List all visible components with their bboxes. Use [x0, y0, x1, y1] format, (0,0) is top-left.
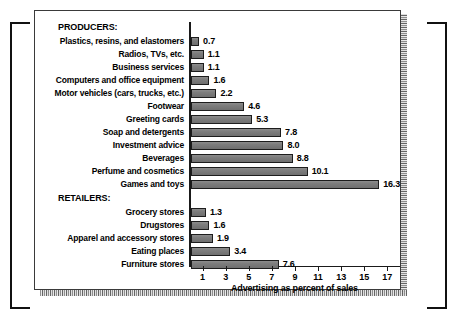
x-axis-tick-label: 3	[223, 272, 228, 282]
x-axis-tick-label: 15	[359, 272, 369, 282]
bar-category-label: Apparel and accessory stores	[67, 232, 184, 245]
bar-value-label: 4.6	[248, 100, 260, 113]
x-axis-tick	[364, 266, 365, 271]
bar	[191, 167, 308, 176]
x-axis-tick-label: 11	[313, 272, 323, 282]
bar-row: Greeting cards5.3	[35, 113, 400, 126]
section-title-producers: PRODUCERS:	[58, 22, 118, 32]
x-axis-tick-label: 1	[200, 272, 205, 282]
bar-value-label: 7.8	[285, 126, 297, 139]
bar-value-label: 1.6	[213, 219, 225, 232]
bar-category-label: Grocery stores	[126, 206, 184, 219]
bar-category-label: Furniture stores	[121, 258, 184, 271]
bar-category-label: Motor vehicles (cars, trucks, etc.)	[55, 87, 184, 100]
bar	[191, 208, 206, 217]
bar	[191, 102, 244, 111]
bar-category-label: Footwear	[147, 100, 184, 113]
x-axis-tick	[272, 266, 273, 271]
bar-value-label: 1.1	[208, 48, 220, 61]
bar-row: Furniture stores7.6	[35, 258, 400, 271]
bar-category-label: Business services	[112, 61, 184, 74]
bar-category-label: Plastics, resins, and elastomers	[60, 35, 184, 48]
bar	[191, 76, 209, 85]
bar-value-label: 5.3	[256, 113, 268, 126]
bar-row: Perfume and cosmetics10.1	[35, 165, 400, 178]
bar-row: Investment advice8.0	[35, 139, 400, 152]
chart-panel: Advertising as percent of sales PRODUCER…	[34, 10, 401, 290]
bar-category-label: Drugstores	[140, 219, 184, 232]
x-axis-tick-label: 7	[269, 272, 274, 282]
bar-row: Grocery stores1.3	[35, 206, 400, 219]
bar-category-label: Investment advice	[113, 139, 184, 152]
bar-row: Plastics, resins, and elastomers0.7	[35, 35, 400, 48]
bar-row: Soap and detergents7.8	[35, 126, 400, 139]
bar-category-label: Soap and detergents	[103, 126, 184, 139]
bar-chart-plot: Advertising as percent of sales PRODUCER…	[35, 11, 400, 289]
bar	[191, 128, 281, 137]
bar-row: Drugstores1.6	[35, 219, 400, 232]
bar-row: Computers and office equipment1.6	[35, 74, 400, 87]
decorative-bracket-left	[10, 22, 30, 309]
bar	[191, 247, 230, 256]
bar-value-label: 1.1	[208, 61, 220, 74]
x-axis-tick-label: 9	[292, 272, 297, 282]
section-title-retailers: RETAILERS:	[58, 193, 110, 203]
x-axis-tick-label: 5	[246, 272, 251, 282]
bar-category-label: Games and toys	[120, 178, 184, 191]
bar-value-label: 2.2	[220, 87, 232, 100]
bar-category-label: Greeting cards	[126, 113, 184, 126]
bar-value-label: 16.3	[383, 178, 400, 191]
bar-value-label: 8.0	[287, 139, 299, 152]
bar	[191, 37, 199, 46]
x-axis-tick	[249, 266, 250, 271]
bar	[191, 154, 293, 163]
x-axis-tick	[318, 266, 319, 271]
bar-value-label: 8.8	[297, 152, 309, 165]
bar	[191, 221, 209, 230]
x-axis-title: Advertising as percent of sales	[189, 283, 400, 293]
bar-value-label: 7.6	[283, 258, 295, 271]
bar-row: Apparel and accessory stores1.9	[35, 232, 400, 245]
bar-value-label: 1.3	[210, 206, 222, 219]
x-axis-tick	[341, 266, 342, 271]
x-axis-tick-label: 13	[336, 272, 346, 282]
bar	[191, 260, 279, 269]
x-axis-tick	[387, 266, 388, 271]
bar	[191, 234, 213, 243]
x-axis-tick	[226, 266, 227, 271]
bar-row: Radios, TVs, etc.1.1	[35, 48, 400, 61]
bar-row: Business services1.1	[35, 61, 400, 74]
decorative-bracket-right	[427, 22, 447, 309]
bar	[191, 89, 216, 98]
x-axis-tick	[295, 266, 296, 271]
bar	[191, 180, 379, 189]
bar-value-label: 10.1	[312, 165, 329, 178]
bar-row: Beverages8.8	[35, 152, 400, 165]
bar-row: Eating places3.4	[35, 245, 400, 258]
bar-category-label: Eating places	[131, 245, 184, 258]
x-axis-tick	[203, 266, 204, 271]
bar	[191, 50, 204, 59]
bar	[191, 115, 252, 124]
bar-category-label: Computers and office equipment	[56, 74, 184, 87]
bar-category-label: Perfume and cosmetics	[92, 165, 184, 178]
bar	[191, 63, 204, 72]
x-axis-tick-label: 17	[382, 272, 392, 282]
bar-row: Footwear4.6	[35, 100, 400, 113]
bar-category-label: Radios, TVs, etc.	[119, 48, 184, 61]
panel-shadow-right	[401, 14, 407, 294]
bar-value-label: 1.6	[213, 74, 225, 87]
bar-category-label: Beverages	[142, 152, 184, 165]
bar-value-label: 0.7	[203, 35, 215, 48]
bar-row: Motor vehicles (cars, trucks, etc.)2.2	[35, 87, 400, 100]
bar-value-label: 3.4	[234, 245, 246, 258]
bar	[191, 141, 283, 150]
bar-row: Games and toys16.3	[35, 178, 400, 191]
bar-value-label: 1.9	[217, 232, 229, 245]
